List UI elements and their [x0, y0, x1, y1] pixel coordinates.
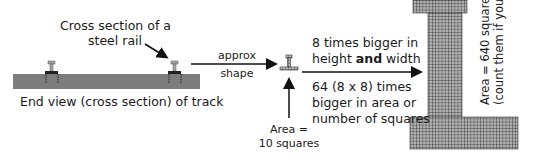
track-caption: End view (cross section) of track: [20, 94, 223, 109]
big-area-line2: (count them if you like): [492, 0, 506, 105]
rail-caption: Cross section of a steel rail: [60, 18, 170, 48]
area-line1: 64 (8 x 8) times: [312, 79, 430, 95]
area-line3: number of squares: [312, 111, 430, 127]
scale-line2-bold: and: [356, 51, 382, 66]
big-area-label: Area = 640 squares (count them if you li…: [478, 0, 506, 105]
scale-line2-pre: height: [312, 51, 356, 66]
big-area-line1: Area = 640 squares: [478, 0, 492, 105]
approx-label: approx: [212, 48, 262, 63]
rail-caption-line1: Cross section of a: [60, 18, 170, 33]
scale-line2: height and width: [312, 51, 421, 67]
shape-label: shape: [212, 66, 262, 81]
small-area-label: Area = 10 squares: [255, 123, 323, 151]
scale-line1: 8 times bigger in: [312, 35, 421, 51]
rail-caption-line2: steel rail: [60, 33, 170, 48]
scale-line2-post: width: [382, 51, 420, 66]
small-area-line2: 10 squares: [255, 137, 323, 151]
small-grid-shape: [280, 55, 298, 70]
track-cross-section: [13, 61, 200, 89]
area-line2: bigger in area or: [312, 95, 430, 111]
scale-description: 8 times bigger in height and width: [312, 35, 421, 67]
area-description: 64 (8 x 8) times bigger in area or numbe…: [312, 79, 430, 127]
